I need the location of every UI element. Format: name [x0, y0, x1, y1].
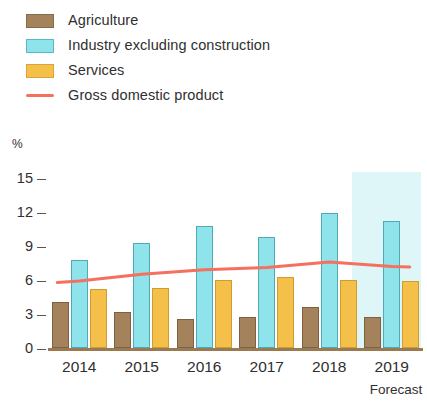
y-axis-unit-label: %: [12, 137, 23, 151]
y-axis-tick: 6: [0, 272, 46, 288]
legend-item-gdp: Gross domestic product: [26, 83, 356, 108]
chart-legend: Agriculture Industry excluding construct…: [26, 8, 356, 108]
legend-label-services: Services: [68, 63, 124, 78]
gdp-line-series: [48, 172, 423, 354]
legend-line-gdp-icon: [26, 89, 54, 103]
x-axis-tick-2019: 2019: [375, 358, 409, 376]
legend-swatch-industry-icon: [26, 39, 54, 53]
plot-area: 15129630201420152016201720182019Forecast: [48, 172, 423, 354]
x-axis-tick-2015: 2015: [125, 358, 159, 376]
legend-swatch-agriculture-icon: [26, 14, 54, 28]
legend-item-industry: Industry excluding construction: [26, 33, 356, 58]
forecast-annotation-label: Forecast: [370, 382, 423, 397]
y-axis-tick: 0: [0, 340, 46, 356]
x-axis-tick-2017: 2017: [250, 358, 284, 376]
legend-label-industry: Industry excluding construction: [68, 38, 270, 53]
gdp-sector-growth-chart: Agriculture Industry excluding construct…: [0, 0, 427, 404]
x-axis-tick-2014: 2014: [62, 358, 96, 376]
y-axis-tick: 12: [0, 204, 46, 220]
y-axis-tick: 3: [0, 306, 46, 322]
x-axis-tick-2016: 2016: [187, 358, 221, 376]
x-axis-tick-2018: 2018: [312, 358, 346, 376]
legend-swatch-services-icon: [26, 64, 54, 78]
y-axis-tick: 9: [0, 238, 46, 254]
y-axis-tick: 15: [0, 170, 46, 186]
legend-item-agriculture: Agriculture: [26, 8, 356, 33]
legend-item-services: Services: [26, 58, 356, 83]
legend-label-agriculture: Agriculture: [68, 13, 138, 28]
legend-label-gdp: Gross domestic product: [68, 88, 223, 103]
